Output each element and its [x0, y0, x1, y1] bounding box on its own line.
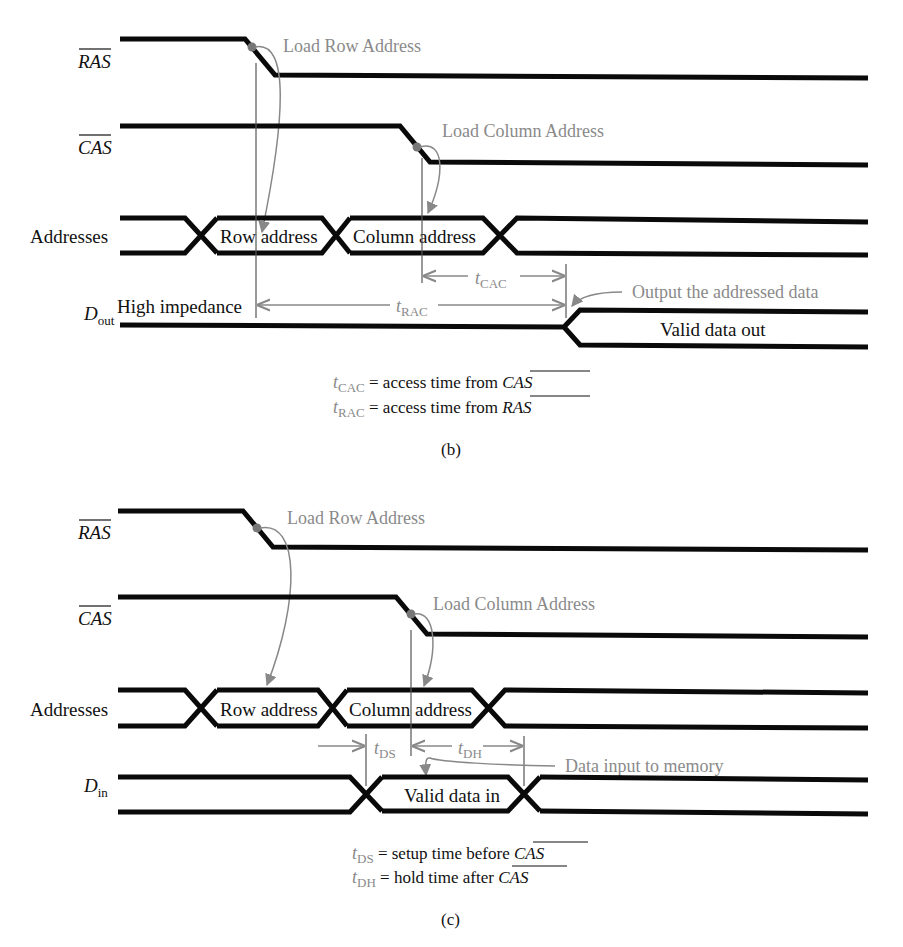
svg-text:RAS: RAS [77, 51, 111, 72]
data-input-arrow [426, 758, 555, 775]
high-impedance-label: High impedance [117, 296, 242, 317]
load-row-annotation: Load Row Address [283, 36, 421, 56]
column-address-label: Column address [353, 226, 476, 247]
figure-b: RAS Load Row Address CAS Load Column Add… [30, 36, 868, 459]
figure-c: RAS Load Row Address CAS Load Column Add… [30, 508, 868, 929]
svg-text:CAS: CAS [78, 608, 112, 629]
figure-c-caption: (c) [441, 910, 460, 929]
data-input-annotation: Data input to memory [565, 756, 723, 776]
addresses-label-c: Addresses [30, 699, 108, 720]
ras-label: RAS [77, 49, 111, 72]
svg-text:tDS: tDS [374, 738, 396, 761]
output-data-arrow [572, 292, 622, 306]
svg-text:tDH = hold time after CAS: tDH = hold time after CAS [352, 867, 529, 890]
svg-text:tRAC = access time from RAS: tRAC = access time from RAS [333, 397, 532, 420]
trac-dimension: tRAC [258, 296, 564, 319]
output-data-annotation: Output the addressed data [632, 282, 818, 302]
svg-text:tRAC: tRAC [396, 296, 428, 319]
cas-label: CAS [78, 135, 112, 158]
load-col-annotation-c: Load Column Address [433, 594, 595, 614]
svg-text:CAS: CAS [78, 137, 112, 158]
load-row-annotation-c: Load Row Address [287, 508, 425, 528]
load-row-arrow-c [260, 527, 291, 685]
svg-text:RAS: RAS [77, 522, 111, 543]
valid-data-in-label: Valid data in [404, 785, 501, 806]
svg-text:tCAC = access time from CAS: tCAC = access time from CAS [333, 372, 533, 395]
din-label: Din [83, 775, 108, 800]
row-address-label-c: Row address [220, 699, 318, 720]
figure-c-legend: tDS = setup time before CAS tDH = hold t… [352, 842, 588, 890]
svg-text:tDS = setup time before CAS: tDS = setup time before CAS [352, 843, 545, 866]
ras-waveform [120, 39, 868, 78]
figure-b-caption: (b) [441, 440, 461, 459]
row-address-label: Row address [220, 226, 318, 247]
load-col-annotation: Load Column Address [442, 121, 604, 141]
timing-diagram: RAS Load Row Address CAS Load Column Add… [0, 0, 903, 947]
cas-label-c: CAS [78, 606, 112, 629]
svg-text:tCAC: tCAC [475, 268, 507, 291]
tcac-dimension: tCAC [424, 268, 564, 291]
addresses-label: Addresses [30, 226, 108, 247]
dout-label: Dout [83, 303, 115, 328]
valid-data-out-label: Valid data out [660, 319, 766, 340]
figure-b-legend: tCAC = access time from CAS tRAC = acces… [333, 371, 590, 420]
ras-label-c: RAS [77, 520, 111, 543]
svg-text:tDH: tDH [458, 738, 482, 761]
ras-waveform-c [118, 511, 868, 550]
tds-dimension: tDS [318, 738, 396, 761]
